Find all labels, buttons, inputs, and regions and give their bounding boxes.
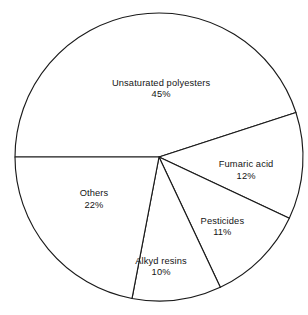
pie-label-name: Others [80, 188, 109, 200]
pie-label-fumaric-acid: Fumaric acid12% [219, 159, 274, 182]
pie-label-name: Alkyd resins [135, 256, 187, 268]
pie-label-value: 12% [219, 171, 274, 183]
pie-label-value: 10% [135, 268, 187, 280]
pie-label-others: Others22% [80, 188, 109, 211]
pie-label-unsaturated-polyesters: Unsaturated polyesters45% [112, 78, 210, 101]
pie-label-name: Pesticides [201, 216, 245, 228]
pie-label-value: 45% [112, 90, 210, 102]
pie-label-alkyd-resins: Alkyd resins10% [135, 256, 187, 279]
pie-label-pesticides: Pesticides11% [201, 216, 245, 239]
pie-label-name: Fumaric acid [219, 159, 274, 171]
pie-label-name: Unsaturated polyesters [112, 78, 210, 90]
pie-label-value: 22% [80, 200, 109, 212]
pie-label-value: 11% [201, 228, 245, 240]
pie-chart-figure: Unsaturated polyesters45%Fumaric acid12%… [0, 0, 308, 315]
